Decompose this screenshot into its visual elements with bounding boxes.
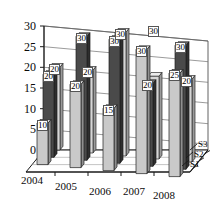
y-tick-30: 30 xyxy=(10,20,36,32)
value-label-S3-2008: 20 xyxy=(181,76,192,87)
value-label-S1-2007: 30 xyxy=(136,46,147,57)
x-tick-2008: 2008 xyxy=(153,190,175,199)
depth-tick-S1: S1 xyxy=(190,160,200,169)
value-label-S1-2004: 10 xyxy=(37,120,48,131)
value-label-S2-2007: 20 xyxy=(142,80,153,91)
bar-S1-2007 xyxy=(136,46,150,174)
depth-tick-S2: S2 xyxy=(194,150,204,159)
x-tick-2007: 2007 xyxy=(123,186,145,197)
value-label-S2-2008: 30 xyxy=(175,42,186,53)
x-tick-2004: 2004 xyxy=(21,175,43,186)
x-tick-2005: 2005 xyxy=(55,181,77,192)
bar-S1-2005 xyxy=(70,81,84,168)
y-tick-5: 5 xyxy=(10,123,36,135)
y-tick-0: 0 xyxy=(10,144,36,156)
value-label-S1-2005: 20 xyxy=(70,81,81,92)
y-tick-10: 10 xyxy=(10,103,36,115)
y-tick-15: 15 xyxy=(10,82,36,94)
value-label-S3-2005: 20 xyxy=(82,67,93,78)
value-label-S1-2006: 15 xyxy=(103,105,114,116)
x-tick-2006: 2006 xyxy=(89,186,111,197)
y-tick-20: 20 xyxy=(10,61,36,73)
value-label-S2-2005: 30 xyxy=(76,33,87,44)
y-tick-25: 25 xyxy=(10,41,36,53)
chart-3d-column: 30 25 20 15 10 5 0 2004 2005 2006 2007 2… xyxy=(0,0,219,199)
value-label-S1-2008: 25 xyxy=(169,70,180,81)
value-label-S3-2007: 30 xyxy=(148,26,159,37)
depth-tick-S3: S3 xyxy=(198,140,208,149)
value-label-S3-2006: 30 xyxy=(115,29,126,40)
x-axis-line xyxy=(26,172,190,176)
value-label-S3-2004: 20 xyxy=(49,64,60,75)
